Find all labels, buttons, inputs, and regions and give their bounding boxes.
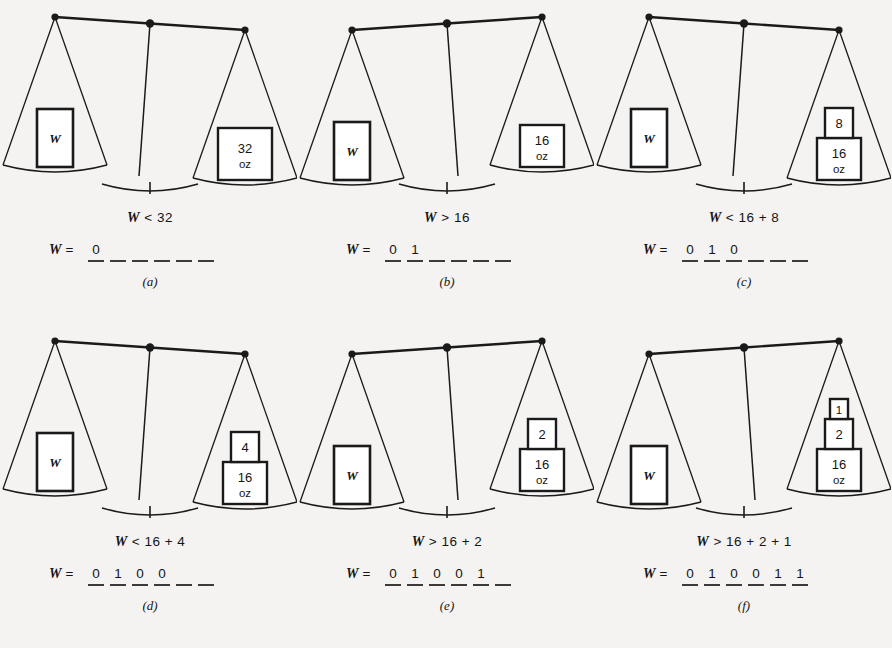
reference-weight-unit-16: oz [536, 150, 548, 162]
binary-digit-3: 0 [455, 566, 463, 581]
binary-digit-0: 0 [686, 566, 694, 581]
balance-diagram-c: W16oz8W < 16 + 8W =010(c) [594, 0, 891, 324]
comparison-expression: W < 16 + 4 [115, 534, 186, 549]
pointer-needle [139, 24, 150, 177]
binary-digit-0: 0 [92, 566, 100, 581]
reference-weight-16: 16oz [223, 462, 267, 504]
pointer-needle [139, 348, 150, 501]
pointer-needle [733, 24, 744, 177]
binary-digit-3: 0 [752, 566, 760, 581]
reference-weight-value-16: 16 [535, 133, 549, 148]
binary-digit-4: 1 [774, 566, 782, 581]
reference-weight-value-4: 4 [241, 440, 248, 455]
reference-weight-16: 16oz [817, 138, 861, 180]
comparison-expression: W > 16 + 2 [412, 534, 483, 549]
unknown-weight-box: W [334, 122, 370, 180]
binary-digit-3: 0 [158, 566, 166, 581]
binary-digit-1: 1 [411, 242, 419, 257]
reference-weight-value-16: 16 [238, 470, 252, 485]
reference-weight-unit-32: oz [239, 158, 251, 170]
balance-panel-d: W16oz4W < 16 + 4W =0100(d) [0, 324, 297, 648]
reference-weight-unit-16: oz [536, 474, 548, 486]
binary-prefix: W = [49, 242, 74, 257]
reference-weight-2: 2 [825, 419, 853, 449]
panel-caption: (e) [440, 598, 454, 613]
reference-weight-value-16: 16 [832, 146, 846, 161]
reference-weight-4: 4 [231, 432, 259, 462]
unknown-weight-label: W [346, 144, 359, 159]
binary-digit-1: 1 [708, 242, 716, 257]
balance-panel-c: W16oz8W < 16 + 8W =010(c) [594, 0, 891, 324]
pointer-needle [744, 348, 755, 501]
reference-weight-16: 16oz [520, 125, 564, 167]
panel-caption: (b) [439, 274, 454, 289]
unknown-weight-label: W [643, 131, 656, 146]
figure-root: W32ozW < 32W =0(a)W16ozW > 16W =01(b)W16… [0, 0, 892, 648]
unknown-weight-label: W [49, 455, 62, 470]
balance-panel-f: W16oz21W > 16 + 2 + 1W =010011(f) [594, 324, 891, 648]
balance-diagram-b: W16ozW > 16W =01(b) [297, 0, 594, 324]
binary-digit-1: 1 [411, 566, 419, 581]
panel-caption: (f) [738, 598, 750, 613]
binary-digit-2: 0 [433, 566, 441, 581]
binary-answer-line: W =0 [49, 242, 214, 261]
binary-prefix: W = [49, 566, 74, 581]
unknown-weight-box: W [631, 109, 667, 167]
balance-panel-a: W32ozW < 32W =0(a) [0, 0, 297, 324]
binary-digit-2: 0 [730, 242, 738, 257]
balance-panel-b: W16ozW > 16W =01(b) [297, 0, 594, 324]
binary-digit-0: 0 [389, 566, 397, 581]
comparison-expression: W < 32 [127, 210, 173, 225]
comparison-expression: W > 16 + 2 + 1 [696, 534, 792, 549]
binary-digit-0: 0 [686, 242, 694, 257]
balance-diagram-a: W32ozW < 32W =0(a) [0, 0, 297, 324]
pointer-needle [447, 348, 458, 501]
reference-weight-value-2: 2 [538, 427, 545, 442]
binary-digit-0: 0 [389, 242, 397, 257]
reference-weight-value-16: 16 [535, 457, 549, 472]
panel-caption: (a) [142, 274, 157, 289]
binary-digit-0: 0 [92, 242, 100, 257]
binary-answer-line: W =010 [643, 242, 808, 261]
reference-weight-unit-16: oz [833, 474, 845, 486]
reference-weight-unit-16: oz [833, 163, 845, 175]
binary-answer-line: W =010011 [643, 566, 808, 585]
reference-weight-1: 1 [830, 399, 848, 419]
binary-prefix: W = [346, 566, 371, 581]
panel-caption: (d) [142, 598, 157, 613]
unknown-weight-box: W [37, 109, 73, 167]
reference-weight-value-1: 1 [836, 404, 842, 416]
reference-weight-value-16: 16 [832, 457, 846, 472]
balance-diagram-f: W16oz21W > 16 + 2 + 1W =010011(f) [594, 324, 891, 648]
unknown-weight-label: W [49, 131, 62, 146]
reference-weight-16: 16oz [520, 449, 564, 491]
binary-digit-2: 0 [136, 566, 144, 581]
binary-digit-4: 1 [477, 566, 485, 581]
binary-digit-1: 1 [708, 566, 716, 581]
balance-panel-e: W16oz2W > 16 + 2W =01001(e) [297, 324, 594, 648]
binary-answer-line: W =01001 [346, 566, 511, 585]
binary-answer-line: W =0100 [49, 566, 214, 585]
unknown-weight-label: W [346, 468, 359, 483]
reference-weight-value-8: 8 [835, 116, 842, 131]
reference-weight-8: 8 [825, 108, 853, 138]
binary-prefix: W = [643, 242, 668, 257]
binary-prefix: W = [643, 566, 668, 581]
reference-weight-unit-16: oz [239, 487, 251, 499]
reference-weight-2: 2 [528, 419, 556, 449]
unknown-weight-box: W [37, 433, 73, 491]
binary-prefix: W = [346, 242, 371, 257]
reference-weight-32: 32oz [218, 128, 272, 180]
binary-digit-5: 1 [796, 566, 804, 581]
balance-diagram-e: W16oz2W > 16 + 2W =01001(e) [297, 324, 594, 648]
binary-digit-1: 1 [114, 566, 122, 581]
binary-digit-2: 0 [730, 566, 738, 581]
comparison-expression: W < 16 + 8 [709, 210, 780, 225]
unknown-weight-box: W [334, 446, 370, 504]
balance-diagram-d: W16oz4W < 16 + 4W =0100(d) [0, 324, 297, 648]
unknown-weight-box: W [631, 446, 667, 504]
pointer-needle [447, 24, 458, 177]
binary-answer-line: W =01 [346, 242, 511, 261]
reference-weight-value-2: 2 [835, 427, 842, 442]
reference-weight-value-32: 32 [238, 141, 252, 156]
